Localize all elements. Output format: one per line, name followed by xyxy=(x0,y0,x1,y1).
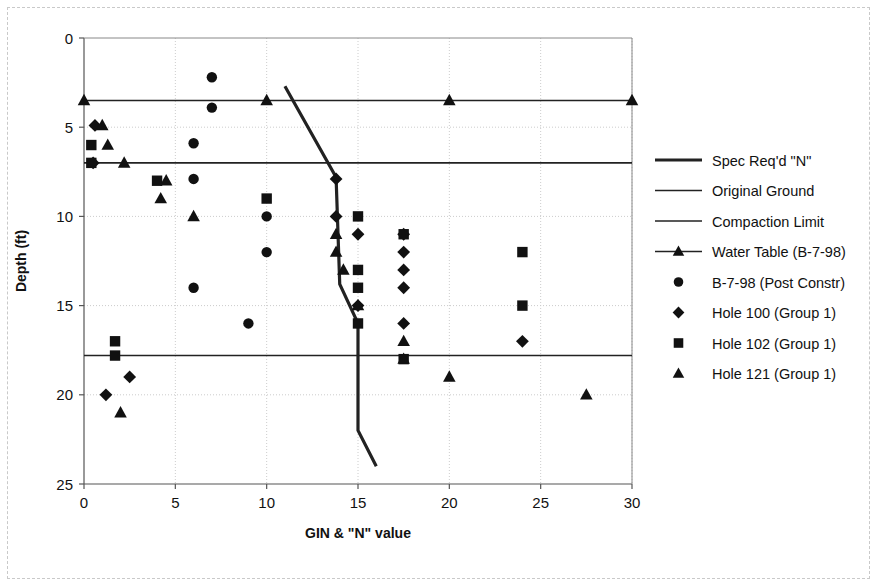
legend-item-label: Compaction Limit xyxy=(712,214,824,230)
y-axis-title: Depth (ft) xyxy=(13,230,29,292)
marker-diamond xyxy=(673,307,685,319)
legend-item-label: Hole 100 (Group 1) xyxy=(712,305,836,321)
legend-item-label: Hole 102 (Group 1) xyxy=(712,336,836,352)
marker-square xyxy=(398,229,408,239)
scatter-plot: 0510152025300510152025GIN & "N" valueDep… xyxy=(0,0,879,587)
legend-item[interactable]: B-7-98 (Post Constr) xyxy=(674,275,845,291)
marker-circle xyxy=(188,174,198,184)
legend-item-label: Original Ground xyxy=(712,183,814,199)
marker-circle xyxy=(261,247,271,257)
y-tick-label: 15 xyxy=(56,297,73,314)
marker-square xyxy=(353,283,363,293)
marker-circle xyxy=(261,211,271,221)
marker-circle xyxy=(207,72,217,82)
marker-circle xyxy=(243,318,253,328)
y-tick-label: 5 xyxy=(65,119,73,136)
marker-square xyxy=(353,318,363,328)
legend-item[interactable]: Hole 102 (Group 1) xyxy=(674,336,836,352)
marker-circle xyxy=(207,102,217,112)
x-tick-label: 0 xyxy=(80,494,88,511)
marker-circle xyxy=(674,277,684,287)
marker-circle xyxy=(188,283,198,293)
x-tick-label: 10 xyxy=(258,494,275,511)
legend-item-label: B-7-98 (Post Constr) xyxy=(712,275,845,291)
marker-square xyxy=(110,336,120,346)
legend: Spec Req'd "N"Original GroundCompaction … xyxy=(655,153,846,383)
marker-square xyxy=(517,247,527,257)
marker-square xyxy=(261,193,271,203)
y-tick-label: 25 xyxy=(56,476,73,493)
x-axis-title: GIN & "N" value xyxy=(305,525,411,541)
y-tick-label: 0 xyxy=(65,30,73,47)
legend-item[interactable]: Spec Req'd "N" xyxy=(655,153,811,169)
legend-item[interactable]: Compaction Limit xyxy=(655,214,824,230)
marker-square xyxy=(86,158,96,168)
y-tick-label: 20 xyxy=(56,386,73,403)
legend-item[interactable]: Hole 100 (Group 1) xyxy=(673,305,837,321)
marker-square xyxy=(517,300,527,310)
marker-triangle xyxy=(673,367,685,377)
x-tick-label: 30 xyxy=(624,494,641,511)
legend-item[interactable]: Original Ground xyxy=(655,183,814,199)
legend-item[interactable]: Water Table (B-7-98) xyxy=(655,244,846,260)
marker-square xyxy=(353,265,363,275)
marker-triangle xyxy=(673,245,685,255)
x-tick-label: 15 xyxy=(350,494,367,511)
legend-item[interactable]: Hole 121 (Group 1) xyxy=(673,366,836,382)
marker-circle xyxy=(188,138,198,148)
marker-square xyxy=(353,211,363,221)
marker-square xyxy=(86,140,96,150)
legend-item-label: Hole 121 (Group 1) xyxy=(712,366,836,382)
x-tick-label: 25 xyxy=(532,494,549,511)
marker-square xyxy=(110,350,120,360)
x-tick-label: 5 xyxy=(171,494,179,511)
marker-square xyxy=(674,338,684,348)
x-tick-label: 20 xyxy=(441,494,458,511)
chart-figure: 0510152025300510152025GIN & "N" valueDep… xyxy=(0,0,879,587)
y-tick-label: 10 xyxy=(56,208,73,225)
legend-item-label: Spec Req'd "N" xyxy=(712,153,811,169)
legend-item-label: Water Table (B-7-98) xyxy=(712,244,846,260)
